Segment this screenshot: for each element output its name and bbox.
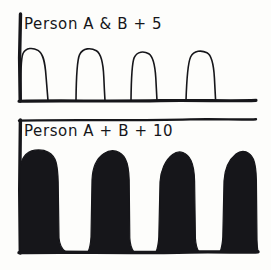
bottom-panel-top-rule xyxy=(19,119,256,120)
bottom-panel-bump-2 xyxy=(88,151,134,252)
top-panel-bump-4 xyxy=(186,51,216,100)
bottom-panel-bump-1 xyxy=(20,150,66,252)
bottom-panel-bump-4 xyxy=(220,151,258,252)
top-panel: Person A & B + 5 xyxy=(19,14,256,101)
bottom-panel-label: Person A + B + 10 xyxy=(24,122,173,140)
top-panel-bump-1 xyxy=(21,48,48,100)
bottom-panel: Person A + B + 10 xyxy=(19,119,258,253)
top-panel-bump-2 xyxy=(76,49,105,101)
bottom-panel-bump-3 xyxy=(156,152,199,252)
top-panel-label: Person A & B + 5 xyxy=(24,15,162,33)
top-panel-baseline xyxy=(19,100,256,101)
top-panel-bump-3 xyxy=(131,52,157,101)
hand-drawn-chart-figure: Person A & B + 5 Person A + B + 10 xyxy=(0,0,271,270)
chart-canvas: Person A & B + 5 Person A + B + 10 xyxy=(0,0,271,270)
